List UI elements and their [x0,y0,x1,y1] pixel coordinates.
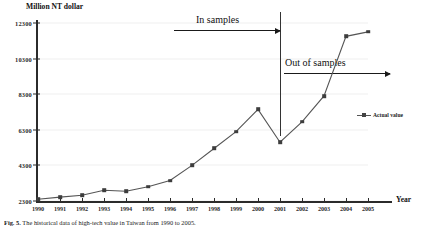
y-tick-label: 6300 [18,126,32,133]
x-tick-mark [104,198,105,203]
x-tick-label: 2002 [296,205,308,212]
x-tick-mark [214,198,215,203]
x-tick-mark [192,198,193,203]
annotation-out-of-samples-label: Out of samples [285,57,346,68]
figure-container: Million NT dollar Year 23004300630083001… [0,0,429,230]
gridline [38,94,368,95]
annotation-out-of-samples-arrow-icon [284,73,390,74]
figure-caption-text: The historical data of high-tech value i… [22,219,195,226]
figure-caption-label: Fig. 5. [4,219,21,226]
data-point-marker [234,130,238,134]
data-point-marker [322,94,326,98]
x-tick-label: 1998 [208,205,220,212]
gridline [38,165,368,166]
figure-caption: Fig. 5. The historical data of high-tech… [4,219,425,230]
data-point-marker [58,195,62,199]
data-point-marker [80,194,84,198]
data-point-marker [278,140,282,144]
gridline [38,129,368,130]
x-tick-label: 1990 [32,205,44,212]
annotation-in-samples-arrow-icon [174,30,280,31]
x-tick-label: 1992 [76,205,88,212]
x-tick-label: 2001 [274,205,286,212]
x-tick-label: 2004 [340,205,352,212]
y-axis-title: Million NT dollar [26,2,83,11]
x-tick-label: 2003 [318,205,330,212]
x-tick-mark [82,198,83,203]
x-axis-title: Year [396,195,411,204]
x-tick-label: 1994 [120,205,132,212]
legend-label-actual-value: Actual value [373,112,403,118]
x-tick-mark [126,198,127,203]
x-tick-mark [302,198,303,203]
x-tick-label: 1991 [54,205,66,212]
annotation-in-samples-label: In samples [196,14,239,25]
x-tick-label: 1999 [230,205,242,212]
x-tick-mark [170,198,171,203]
y-tick-label: 2300 [18,198,32,205]
legend: Actual value [357,112,403,118]
x-tick-mark [368,198,369,203]
data-point-marker [212,147,216,151]
x-tick-mark [236,198,237,203]
data-point-marker [36,197,40,201]
x-tick-label: 1993 [98,205,110,212]
data-point-marker [168,179,172,183]
x-tick-mark [148,198,149,203]
data-point-marker [190,164,194,168]
x-tick-label: 2005 [362,205,374,212]
y-axis-line [36,20,38,203]
data-point-marker [256,108,260,112]
x-tick-label: 2000 [252,205,264,212]
data-point-marker [146,185,150,189]
y-tick-label: 10300 [15,55,32,62]
data-point-marker [300,120,304,124]
x-tick-label: 1996 [164,205,176,212]
x-tick-mark [346,198,347,203]
x-tick-label: 1995 [142,205,154,212]
line-square-marker-icon [357,112,371,118]
y-tick-label: 8300 [18,91,32,98]
x-tick-mark [324,198,325,203]
data-point-marker [344,35,348,39]
data-point-marker [102,189,106,193]
data-point-marker [366,30,370,34]
x-tick-mark [258,198,259,203]
x-tick-mark [280,198,281,203]
x-tick-label: 1997 [186,205,198,212]
y-tick-label: 4300 [18,162,32,169]
data-point-marker [124,189,128,193]
y-tick-label: 12300 [15,20,32,27]
